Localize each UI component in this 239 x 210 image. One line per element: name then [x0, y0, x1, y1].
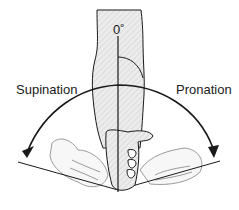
neutral-fist [106, 130, 153, 190]
supination-label: Supination [16, 82, 77, 97]
forearm-rotation-diagram: 0˚ Supination Pronation [0, 0, 239, 210]
arrow-left-icon [22, 146, 34, 158]
zero-degree-label: 0˚ [113, 22, 125, 37]
pronated-hand [140, 148, 202, 185]
pronation-label: Pronation [176, 82, 232, 97]
arrow-right-icon [208, 145, 219, 158]
